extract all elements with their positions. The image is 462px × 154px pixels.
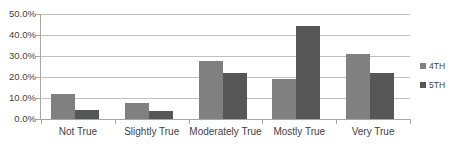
y-axis-tick-label: 0.0%	[2, 114, 36, 124]
bar-4th-not-true[interactable]	[51, 94, 75, 119]
y-axis-tick-label: 10.0%	[2, 93, 36, 103]
legend-label: 5TH	[429, 81, 445, 90]
bar-group	[115, 14, 189, 119]
x-axis-label-not-true: Not True	[41, 126, 115, 138]
chart-legend: 4TH5TH	[420, 59, 462, 97]
bar-5th-moderately-true[interactable]	[223, 73, 247, 119]
bar-5th-mostly-true[interactable]	[296, 26, 320, 119]
y-axis-labels: 0.0%10.0%20.0%30.0%40.0%50.0%	[0, 0, 36, 154]
x-axis-tick	[189, 119, 190, 124]
bar-4th-moderately-true[interactable]	[199, 61, 223, 119]
x-axis-tick	[410, 119, 411, 124]
x-axis-label-very-true: Very True	[336, 126, 410, 138]
bar-5th-very-true[interactable]	[370, 73, 394, 119]
bar-group	[41, 14, 115, 119]
bar-5th-slightly-true[interactable]	[149, 111, 173, 119]
y-axis-tick	[36, 98, 41, 99]
y-axis-tick-label: 30.0%	[2, 51, 36, 61]
x-axis-tick	[336, 119, 337, 124]
legend-item-5th[interactable]: 5TH	[420, 78, 462, 92]
bar-group	[262, 14, 336, 119]
legend-label: 4TH	[429, 62, 445, 71]
x-axis-label-mostly-true: Mostly True	[262, 126, 336, 138]
x-axis-label-moderately-true: Moderately True	[189, 126, 263, 138]
bar-chart: 0.0%10.0%20.0%30.0%40.0%50.0% 4TH5TH Not…	[0, 0, 462, 154]
gridline-0.0%	[41, 119, 410, 120]
bar-4th-very-true[interactable]	[346, 54, 370, 119]
x-axis-tick	[115, 119, 116, 124]
x-axis-tick	[41, 119, 42, 124]
bar-group	[336, 14, 410, 119]
y-axis-tick-label: 20.0%	[2, 72, 36, 82]
bar-4th-mostly-true[interactable]	[272, 79, 296, 119]
y-axis-tick-label: 40.0%	[2, 30, 36, 40]
x-axis-label-slightly-true: Slightly True	[115, 126, 189, 138]
y-axis-tick	[36, 35, 41, 36]
y-axis-tick	[36, 14, 41, 15]
legend-swatch-icon	[420, 82, 426, 88]
plot-area	[41, 14, 410, 119]
bar-group	[189, 14, 263, 119]
y-axis-tick-label: 50.0%	[2, 9, 36, 19]
x-axis-tick	[262, 119, 263, 124]
y-axis-tick	[36, 56, 41, 57]
y-axis-tick	[36, 77, 41, 78]
bar-5th-not-true[interactable]	[75, 110, 99, 119]
bar-4th-slightly-true[interactable]	[125, 103, 149, 119]
legend-item-4th[interactable]: 4TH	[420, 59, 462, 73]
legend-swatch-icon	[420, 63, 426, 69]
